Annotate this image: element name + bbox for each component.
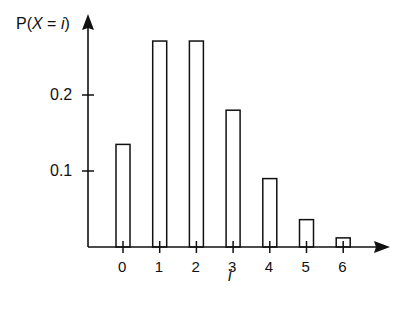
y-tick-label: 0.2 xyxy=(50,87,72,103)
bars xyxy=(116,41,350,247)
x-tick-label: 5 xyxy=(302,259,310,274)
chart-canvas xyxy=(0,0,413,314)
bar xyxy=(116,144,130,247)
x-tick-label: 0 xyxy=(118,259,126,274)
x-tick-label: 3 xyxy=(228,259,236,274)
bar xyxy=(263,179,277,247)
bar xyxy=(226,110,240,247)
x-axis-arrow-icon xyxy=(374,241,390,253)
x-tick-label: 6 xyxy=(338,259,346,274)
x-tick-label: 4 xyxy=(265,259,273,274)
y-axis-label: P(X = i) xyxy=(16,16,70,32)
bar xyxy=(189,41,203,247)
y-tick-label: 0.1 xyxy=(50,163,72,179)
x-tick-label: 2 xyxy=(191,259,199,274)
y-axis-arrow-icon xyxy=(82,14,94,30)
x-tick-label: 1 xyxy=(155,259,163,274)
bar xyxy=(153,41,167,247)
